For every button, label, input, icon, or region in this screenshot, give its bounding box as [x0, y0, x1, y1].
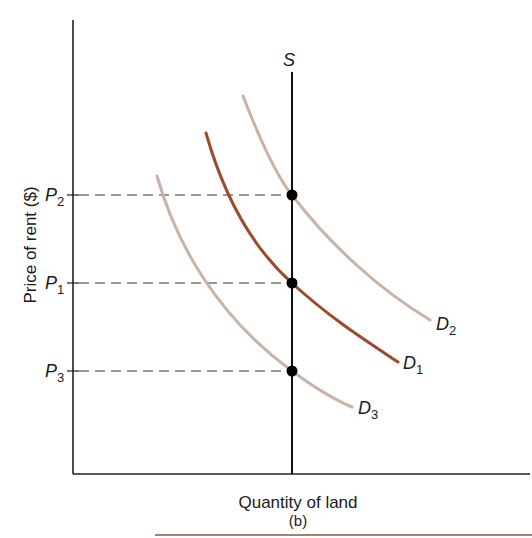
supply-label: S: [283, 50, 295, 70]
demand-label-d2: D2: [436, 314, 456, 338]
chart-figure: S P2 P1 P3 D2 D1 D3 Price of rent ($) Qu…: [0, 0, 532, 538]
x-axis-title: Quantity of land: [238, 493, 357, 512]
demand-curve-d2: [243, 96, 430, 320]
price-label-p2: P2: [45, 185, 64, 209]
demand-curve-d3: [157, 176, 352, 407]
price-label-p3: P3: [45, 361, 64, 385]
price-label-p1: P1: [45, 273, 64, 297]
panel-label: (b): [289, 512, 307, 529]
demand-label-d3: D3: [358, 398, 378, 422]
equilibrium-point-d3: [287, 366, 298, 377]
y-axis-title: Price of rent ($): [21, 186, 40, 303]
demand-label-d1: D1: [403, 353, 423, 377]
equilibrium-point-d2: [287, 190, 298, 201]
demand-curve-d1: [206, 133, 398, 362]
equilibrium-point-d1: [287, 278, 298, 289]
chart-svg: S P2 P1 P3 D2 D1 D3 Price of rent ($) Qu…: [0, 0, 532, 538]
